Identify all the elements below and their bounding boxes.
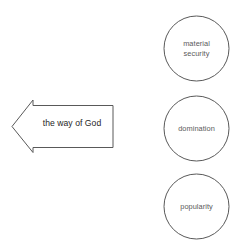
material-security-circle[interactable] bbox=[164, 16, 229, 81]
popularity-circle[interactable] bbox=[164, 174, 229, 239]
domination-circle[interactable] bbox=[164, 96, 229, 161]
the-way-of-god-arrow-shape[interactable] bbox=[12, 100, 113, 153]
diagram-canvas: the way of God material security dominat… bbox=[0, 0, 244, 244]
diagram-shapes bbox=[0, 0, 244, 244]
